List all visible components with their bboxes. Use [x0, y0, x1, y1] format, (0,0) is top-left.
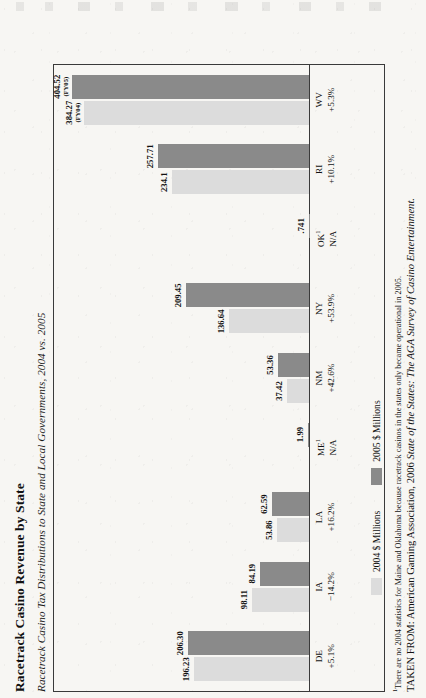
category-label-la: LA+16.2% — [314, 482, 356, 552]
legend-item-2005: 2005 $ Millions — [371, 400, 382, 484]
category-change: +42.6% — [326, 343, 338, 413]
bar-value-note: (FY04) — [74, 101, 81, 125]
rotated-figure-canvas: Racetrack Casino Revenue by State Racetr… — [7, 6, 419, 692]
plot-area: 196.23206.3098.1184.1953.8662.591.9937.4… — [54, 65, 384, 691]
category-state: ME1 — [314, 413, 328, 483]
bar-la-2004: 53.86 — [277, 518, 309, 542]
bar-de-2004: 196.23 — [194, 657, 309, 681]
category-label-me: ME1N/A — [314, 413, 356, 483]
bar-group-ok: .741 — [63, 204, 309, 274]
category-state: NY — [314, 274, 326, 344]
bar-value-label: 234.1 — [159, 173, 169, 193]
category-label-wv: WV+5.3% — [314, 65, 356, 135]
legend-swatch-2004 — [371, 578, 382, 595]
category-state: RI — [314, 135, 326, 205]
category-state: LA — [314, 482, 326, 552]
bar-group-nm: 37.4253.36 — [63, 343, 309, 413]
category-label-ok: OK1N/A — [314, 204, 356, 274]
bar-nm-2005: 53.36 — [278, 353, 309, 377]
category-change: +10.1% — [326, 135, 338, 205]
footnote-text: There are no 2004 statistics for Maine a… — [394, 276, 403, 689]
source-prefix: TAKEN FROM: American Gaming Association,… — [405, 460, 416, 693]
plot-frame: 196.23206.3098.1184.1953.8662.591.9937.4… — [53, 64, 385, 692]
bar-ia-2005: 84.19 — [260, 562, 309, 586]
bar-value-note: (FY05) — [62, 75, 69, 99]
category-label-ny: NY+53.9% — [314, 274, 356, 344]
footnote-marker: 1 — [391, 689, 398, 692]
bar-group-wv: 384.27(FY04)404.52(FY05) — [63, 65, 309, 135]
bar-value-label: 196.23 — [181, 657, 191, 681]
category-footnote-marker: 1 — [314, 439, 321, 442]
legend-swatch-2005 — [371, 468, 382, 485]
category-state: DE — [314, 621, 326, 691]
category-change: −14.2% — [326, 552, 338, 622]
bar-group-ia: 98.1184.19 — [63, 552, 309, 622]
category-change: +5.3% — [326, 65, 338, 135]
category-change: +5.1% — [326, 621, 338, 691]
source-title: State of the States: The AGA Survey of C… — [405, 198, 416, 459]
bar-value-label: 257.71 — [145, 144, 155, 168]
figure-header: Racetrack Casino Revenue by State Racetr… — [13, 6, 47, 692]
bar-wv-2005: 404.52(FY05) — [72, 75, 309, 99]
category-state: OK1 — [314, 204, 328, 274]
figure-footnote: 1There are no 2004 statistics for Maine … — [391, 6, 403, 692]
bar-value-label: 62.59 — [259, 494, 269, 514]
bar-value-label: 209.45 — [173, 283, 183, 307]
figure-subtitle: Racetrack Casino Tax Distributions to St… — [35, 6, 47, 692]
category-state: WV — [314, 65, 326, 135]
category-change: N/A — [328, 413, 340, 483]
bar-group-la: 53.8662.59 — [63, 482, 309, 552]
bar-value-label: 37.42 — [274, 381, 284, 401]
bar-la-2005: 62.59 — [272, 492, 309, 516]
bar-value-label: 53.86 — [264, 520, 274, 540]
category-labels: DE+5.1%IA−14.2%LA+16.2%ME1N/ANM+42.6%NY+… — [314, 65, 356, 691]
bar-groups: 196.23206.3098.1184.1953.8662.591.9937.4… — [63, 65, 309, 691]
category-change: +53.9% — [326, 274, 338, 344]
figure-title: Racetrack Casino Revenue by State — [13, 6, 28, 692]
category-label-ia: IA−14.2% — [314, 552, 356, 622]
bar-me-2005: 1.99 — [308, 423, 309, 447]
bar-value-label: 384.27(FY04) — [64, 101, 81, 125]
bar-ny-2004: 136.64 — [229, 309, 309, 333]
category-change: N/A — [328, 204, 340, 274]
bar-value-label: 1.99 — [295, 427, 305, 442]
bar-value-label: 136.64 — [216, 309, 226, 333]
category-state: NM — [314, 343, 326, 413]
bar-value-label: 404.52(FY05) — [52, 75, 69, 99]
bar-ri-2005: 257.71 — [158, 144, 309, 168]
bar-ny-2005: 209.45 — [186, 283, 309, 307]
bar-group-ny: 136.64209.45 — [63, 274, 309, 344]
figure: Racetrack Casino Revenue by State Racetr… — [7, 6, 419, 692]
bar-nm-2004: 37.42 — [287, 379, 309, 403]
bar-ia-2004: 98.11 — [252, 588, 309, 612]
bar-value-label: .741 — [296, 218, 306, 233]
bar-group-ri: 234.1257.71 — [63, 135, 309, 205]
bar-group-me: 1.99 — [63, 413, 309, 483]
bar-ri-2004: 234.1 — [172, 170, 309, 194]
bar-value-label: 98.11 — [239, 590, 249, 609]
bar-wv-2004: 384.27(FY04) — [84, 101, 309, 125]
category-state: IA — [314, 552, 326, 622]
legend: 2004 $ Millions 2005 $ Millions — [371, 400, 382, 595]
category-label-de: DE+5.1% — [314, 621, 356, 691]
bar-group-de: 196.23206.30 — [63, 621, 309, 691]
figure-source: TAKEN FROM: American Gaming Association,… — [405, 6, 416, 692]
category-footnote-marker: 1 — [314, 231, 321, 234]
bar-de-2005: 206.30 — [188, 631, 309, 655]
legend-item-2004: 2004 $ Millions — [371, 511, 382, 595]
legend-label-2005: 2005 $ Millions — [371, 400, 382, 461]
scanned-page: Racetrack Casino Revenue by State Racetr… — [0, 0, 426, 698]
bar-value-label: 53.36 — [265, 355, 275, 375]
bar-value-label: 84.19 — [247, 564, 257, 584]
category-label-ri: RI+10.1% — [314, 135, 356, 205]
legend-label-2004: 2004 $ Millions — [371, 511, 382, 572]
category-change: +16.2% — [326, 482, 338, 552]
bar-value-label: 206.30 — [175, 631, 185, 655]
category-label-nm: NM+42.6% — [314, 343, 356, 413]
